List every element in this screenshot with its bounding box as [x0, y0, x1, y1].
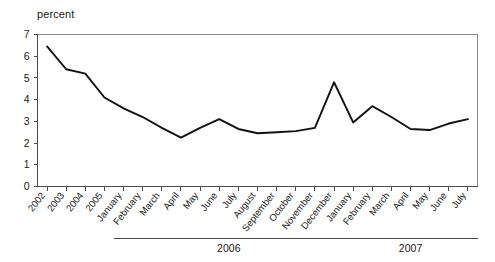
y-axis-tick-label: 6 [24, 50, 30, 62]
y-axis-tick-label: 1 [24, 158, 30, 170]
x-axis-tick-label: April [390, 190, 410, 212]
x-axis-tick-label: May [410, 190, 430, 211]
x-axis-group-label: 2006 [217, 242, 241, 254]
x-axis-tick-label: June [428, 190, 449, 213]
chart-container: percent 01234567 2002200320042005January… [0, 0, 495, 262]
y-axis-tick-label: 7 [24, 28, 30, 40]
y-axis-tick-label: 4 [24, 93, 30, 105]
x-axis-tick-label: March [367, 190, 392, 218]
x-axis-tick-label: 2003 [45, 190, 67, 213]
y-axis: 01234567 [24, 28, 38, 192]
x-axis-group-label: 2007 [399, 242, 423, 254]
y-axis-tick-label: 0 [24, 180, 30, 192]
x-axis-tick-label: 2002 [25, 190, 47, 213]
series-group [47, 46, 468, 137]
x-axis: 2002200320042005JanuaryFebruaryMarchApri… [25, 187, 477, 234]
y-axis-tick-label: 2 [24, 137, 30, 149]
line-chart-plot: 01234567 2002200320042005JanuaryFebruary… [0, 0, 495, 262]
group-label-rules: 20062007 [114, 239, 478, 254]
x-axis-tick-label: July [449, 190, 468, 210]
x-axis-tick-label: May [180, 190, 200, 211]
plot-frame [38, 35, 478, 187]
x-axis-tick-label: 2004 [64, 190, 86, 213]
x-axis-tick-label: June [198, 190, 219, 213]
y-axis-tick-label: 5 [24, 72, 30, 84]
x-axis-tick-label: April [161, 190, 181, 212]
x-axis-tick-label: March [137, 190, 162, 218]
y-axis-tick-label: 3 [24, 115, 30, 127]
